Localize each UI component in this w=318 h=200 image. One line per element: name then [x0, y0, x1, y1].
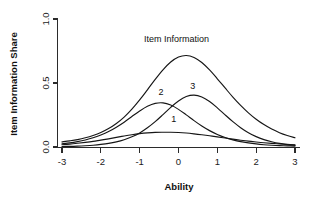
curve-annotations: Item Information231: [144, 34, 209, 124]
x-tick-label: 3: [292, 156, 297, 167]
x-tick-label: -1: [135, 156, 143, 167]
x-tick-label: -2: [97, 156, 105, 167]
x-tick-label: -3: [58, 156, 66, 167]
y-tick-label: 0.0: [40, 140, 51, 153]
annotation-1: 1: [171, 114, 176, 124]
curve-2: [62, 103, 295, 146]
x-tick-marks: [62, 148, 295, 153]
item-information-share-chart: 0.00.51.0 -3-2-10123 Item Information231…: [0, 0, 318, 200]
data-curves: [62, 55, 295, 146]
annotation-2: 2: [159, 87, 164, 97]
y-tick-labels: 0.00.51.0: [40, 12, 51, 153]
chart-figure: 0.00.51.0 -3-2-10123 Item Information231…: [0, 0, 318, 200]
x-axis-title: Ability: [164, 181, 194, 192]
x-tick-label: 2: [254, 156, 259, 167]
curve-3: [62, 95, 295, 146]
x-tick-labels: -3-2-10123: [58, 156, 298, 167]
curve-item-information: [62, 55, 295, 141]
x-tick-label: 1: [215, 156, 220, 167]
y-axis-title: Item Information Share: [8, 32, 19, 135]
annotation-item-information: Item Information: [144, 34, 209, 44]
annotation-3: 3: [190, 81, 195, 91]
x-tick-label: 0: [176, 156, 181, 167]
y-tick-label: 1.0: [40, 12, 51, 25]
y-tick-marks: [53, 19, 58, 147]
y-tick-label: 0.5: [40, 76, 51, 89]
